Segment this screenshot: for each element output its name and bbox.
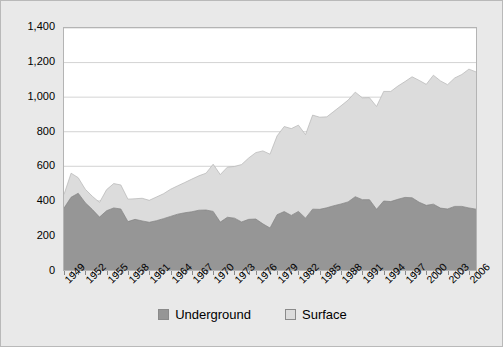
legend-swatch-surface bbox=[285, 309, 296, 320]
legend-label-underground: Underground bbox=[175, 307, 251, 322]
y-axis-label: 600 bbox=[7, 160, 55, 171]
legend-item-surface[interactable]: Surface bbox=[285, 307, 347, 322]
y-axis-label: 800 bbox=[7, 126, 55, 137]
y-axis-label: 0 bbox=[7, 265, 55, 276]
y-axis-label: 1,200 bbox=[7, 56, 55, 67]
y-axis-label: 1,400 bbox=[7, 21, 55, 32]
chart-frame: 02004006008001,0001,2001,400 19491952195… bbox=[0, 0, 503, 347]
legend-label-surface: Surface bbox=[302, 307, 347, 322]
y-axis-label: 400 bbox=[7, 195, 55, 206]
y-axis-label: 1,000 bbox=[7, 91, 55, 102]
legend-swatch-underground bbox=[158, 309, 169, 320]
stacked-area-plot bbox=[64, 28, 476, 270]
chart-legend: Underground Surface bbox=[1, 307, 503, 322]
y-axis-label: 200 bbox=[7, 230, 55, 241]
legend-item-underground[interactable]: Underground bbox=[158, 307, 251, 322]
plot-area bbox=[63, 27, 477, 271]
